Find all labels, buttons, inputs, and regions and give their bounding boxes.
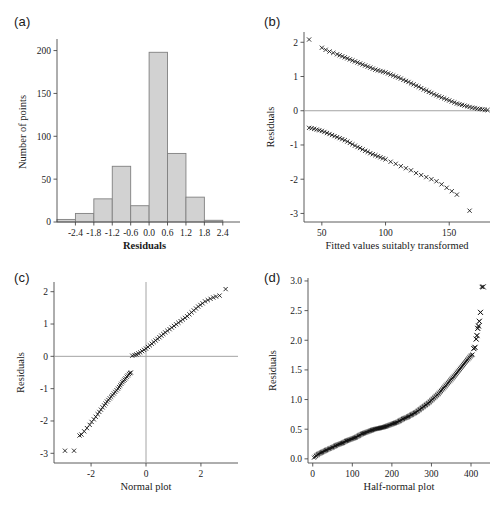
svg-text:-3: -3	[290, 209, 298, 219]
svg-text:400: 400	[464, 469, 479, 479]
panel-d-plot: 0.00.51.01.52.02.53.00100200300400Half-n…	[250, 256, 501, 513]
panel-a: (a) 050100150200-2.4-1.8-1.2-0.60.00.61.…	[0, 0, 250, 256]
svg-text:-1.8: -1.8	[86, 228, 101, 238]
svg-text:200: 200	[37, 46, 52, 56]
svg-text:1.0: 1.0	[290, 395, 302, 405]
svg-text:0: 0	[293, 106, 298, 116]
svg-text:2.5: 2.5	[290, 306, 302, 316]
svg-text:-1: -1	[290, 140, 298, 150]
svg-text:-3: -3	[40, 449, 48, 459]
panel-b: (b) -3-2-101250100150Fitted values suita…	[250, 0, 501, 256]
svg-text:150: 150	[442, 228, 457, 238]
svg-text:1.2: 1.2	[180, 228, 192, 238]
svg-text:300: 300	[424, 469, 439, 479]
svg-text:200: 200	[385, 469, 400, 479]
svg-text:-0.6: -0.6	[123, 228, 138, 238]
svg-text:100: 100	[37, 132, 52, 142]
svg-text:3.0: 3.0	[290, 276, 302, 286]
svg-text:Normal plot: Normal plot	[120, 481, 171, 492]
svg-text:-2: -2	[87, 469, 95, 479]
svg-text:0: 0	[46, 217, 51, 227]
svg-text:0.6: 0.6	[162, 228, 174, 238]
svg-text:Half-normal plot: Half-normal plot	[364, 481, 435, 492]
svg-text:0.0: 0.0	[290, 454, 302, 464]
svg-text:-2: -2	[290, 175, 298, 185]
svg-text:-2: -2	[40, 416, 48, 426]
svg-text:-1.2: -1.2	[105, 228, 120, 238]
svg-text:Residuals: Residuals	[15, 352, 26, 393]
svg-text:150: 150	[37, 89, 52, 99]
svg-text:0: 0	[43, 352, 48, 362]
svg-text:1.5: 1.5	[290, 365, 302, 375]
figure-grid: (a) 050100150200-2.4-1.8-1.2-0.60.00.61.…	[0, 0, 501, 513]
svg-text:1.8: 1.8	[198, 228, 210, 238]
svg-text:-1: -1	[40, 384, 48, 394]
svg-text:Residuals: Residuals	[123, 240, 166, 251]
svg-text:2: 2	[293, 38, 298, 48]
panel-c: (c) -3-2-1012-202Normal plotResiduals	[0, 256, 250, 513]
svg-text:0: 0	[310, 469, 315, 479]
svg-text:Number of points: Number of points	[17, 95, 28, 169]
svg-text:1: 1	[293, 72, 298, 82]
svg-text:Fitted values suitably transfo: Fitted values suitably transformed	[325, 240, 469, 251]
svg-text:1: 1	[43, 319, 48, 329]
svg-text:2.0: 2.0	[290, 336, 302, 346]
panel-b-plot: -3-2-101250100150Fitted values suitably …	[250, 0, 501, 256]
svg-text:Residuals: Residuals	[267, 350, 278, 391]
svg-text:2.4: 2.4	[217, 228, 229, 238]
panel-a-plot: 050100150200-2.4-1.8-1.2-0.60.00.61.21.8…	[0, 0, 250, 256]
panel-d: (d) 0.00.51.01.52.02.53.00100200300400Ha…	[250, 256, 501, 513]
svg-text:2: 2	[43, 287, 48, 297]
svg-text:100: 100	[378, 228, 393, 238]
svg-text:0: 0	[144, 469, 149, 479]
svg-text:50: 50	[42, 175, 52, 185]
svg-text:100: 100	[345, 469, 360, 479]
svg-text:0.5: 0.5	[290, 425, 302, 435]
svg-text:Residuals: Residuals	[265, 107, 276, 148]
svg-text:2: 2	[199, 469, 204, 479]
panel-c-plot: -3-2-1012-202Normal plotResiduals	[0, 256, 250, 513]
svg-text:0.0: 0.0	[143, 228, 155, 238]
svg-text:-2.4: -2.4	[68, 228, 83, 238]
svg-text:50: 50	[317, 228, 327, 238]
